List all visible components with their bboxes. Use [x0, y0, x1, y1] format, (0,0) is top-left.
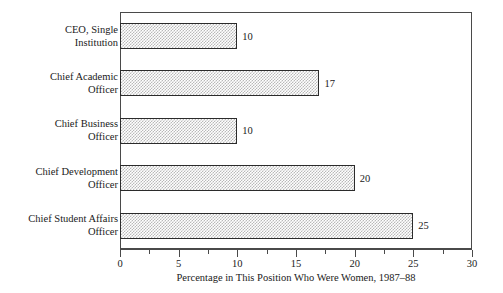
chart-row: Chief Student Affairs Officer 25: [120, 202, 472, 249]
x-axis-tick-minor: [325, 250, 326, 254]
x-axis-tick-minor: [208, 250, 209, 254]
category-label-line1: Chief Academic: [50, 70, 118, 83]
bar-value-label: 25: [413, 213, 429, 239]
category-label-line2: Officer: [88, 178, 118, 191]
category-label-line1: Chief Development: [35, 165, 118, 178]
bar-value-label: 20: [355, 165, 371, 191]
category-label-line1: CEO, Single: [65, 23, 118, 36]
category-label: Chief Business Officer: [0, 107, 118, 154]
bar: [120, 118, 237, 144]
bar: [120, 70, 319, 96]
chart-row: CEO, Single Institution 10: [120, 12, 472, 59]
x-axis-tick-minor: [443, 250, 444, 254]
category-label: Chief Academic Officer: [0, 59, 118, 106]
category-label: CEO, Single Institution: [0, 12, 118, 59]
x-axis-tick-major: [237, 250, 238, 257]
chart-row: Chief Development Officer 20: [120, 154, 472, 201]
bar: [120, 213, 413, 239]
x-axis-tick-label: 5: [176, 258, 181, 269]
bar-value-label: 10: [237, 23, 253, 49]
category-label-line2: Officer: [88, 225, 118, 238]
x-axis-tick-major: [413, 250, 414, 257]
category-label: Chief Student Affairs Officer: [0, 202, 118, 249]
x-axis-tick-label: 25: [408, 258, 419, 269]
x-axis-caption: Percentage in This Position Who Were Wom…: [120, 272, 472, 283]
category-label-line2: Officer: [88, 130, 118, 143]
x-axis-tick-label: 0: [117, 258, 122, 269]
x-axis-tick-label: 30: [467, 258, 478, 269]
x-axis-tick-major: [296, 250, 297, 257]
x-axis-tick-minor: [267, 250, 268, 254]
bar-value-label: 17: [319, 70, 335, 96]
bar: [120, 165, 355, 191]
category-label: Chief Development Officer: [0, 154, 118, 201]
chart-row: Chief Business Officer 10: [120, 107, 472, 154]
category-label-line1: Chief Business: [55, 117, 118, 130]
bar: [120, 23, 237, 49]
category-label-line2: Officer: [88, 83, 118, 96]
x-axis-tick-major: [355, 250, 356, 257]
bar-chart-figure: CEO, Single Institution 10 Chief Academi…: [0, 0, 503, 293]
x-axis-tick-label: 20: [349, 258, 360, 269]
chart-row: Chief Academic Officer 17: [120, 59, 472, 106]
category-label-line1: Chief Student Affairs: [28, 212, 118, 225]
x-axis-tick-label: 15: [291, 258, 302, 269]
x-axis-tick-minor: [149, 250, 150, 254]
x-axis-tick-label: 10: [232, 258, 243, 269]
x-axis-tick-major: [120, 250, 121, 257]
x-axis-tick-minor: [384, 250, 385, 254]
x-axis-tick-major: [179, 250, 180, 257]
bar-value-label: 10: [237, 118, 253, 144]
x-axis-tick-major: [472, 250, 473, 257]
category-label-line2: Institution: [75, 36, 118, 49]
